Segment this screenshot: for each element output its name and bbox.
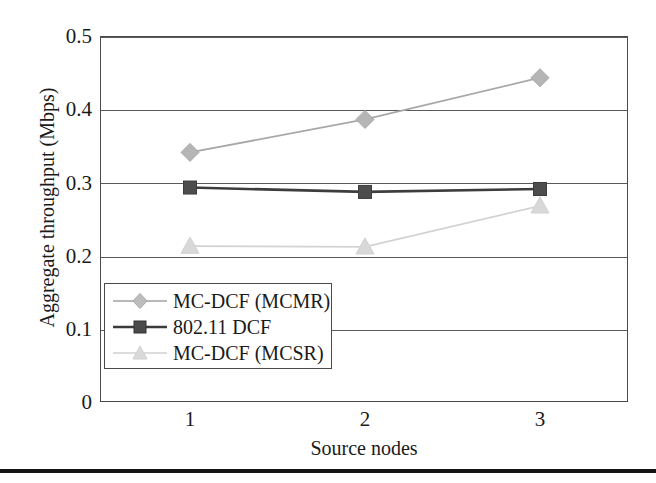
legend-label-dcf: 802.11 DCF [169,317,271,337]
gridline-0.2 [101,257,627,258]
legend-item-mcsr: MC-DCF (MCSR) [105,340,331,366]
triangle-marker-icon [111,342,169,364]
x-tick-label-2: 2 [335,408,395,430]
legend-box: MC-DCF (MCMR) 802.11 DCF MC-DCF (MCSR) [104,283,332,369]
legend-label-mcsr: MC-DCF (MCSR) [169,343,324,363]
x-tick-label-3: 3 [510,408,570,430]
figure-container: 0.5 0.4 0.3 0.2 0.1 0 1 2 3 Aggregate th… [0,0,656,483]
x-tick-label-1: 1 [160,408,220,430]
y-axis-title: Aggregate throughput (Mbps) [36,58,59,358]
legend-item-mcmr: MC-DCF (MCMR) [105,288,331,314]
gridline-0.5 [101,37,627,38]
legend-label-mcmr: MC-DCF (MCMR) [169,291,330,311]
gridline-0.3 [101,183,627,184]
bottom-rule [0,469,656,473]
square-marker-icon [111,316,169,338]
gridline-0.4 [101,110,627,111]
diamond-marker-icon [111,290,169,312]
y-tick-label-0: 0 [40,392,92,413]
legend-item-dcf: 802.11 DCF [105,314,331,340]
x-axis-title: Source nodes [100,437,628,460]
y-tick-label-0.5: 0.5 [40,26,92,47]
